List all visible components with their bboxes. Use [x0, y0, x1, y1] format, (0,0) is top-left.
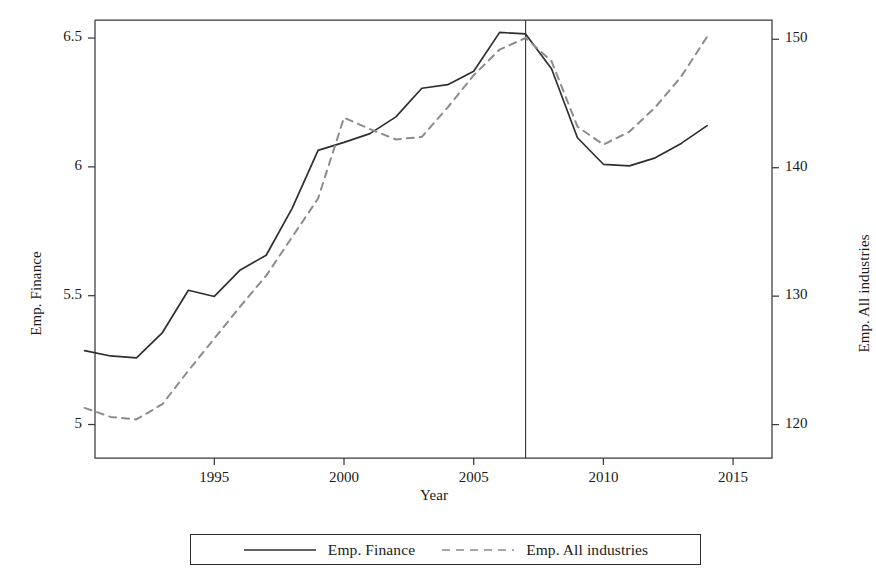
- y-tick-label-left: 6: [10, 157, 82, 174]
- legend-label-emp-all-industries: Emp. All industries: [526, 541, 648, 559]
- x-tick-label: 2005: [440, 469, 508, 486]
- y-tick-label-left: 6.5: [10, 28, 82, 45]
- y-tick-label-right: 150: [785, 29, 845, 46]
- x-tick-label: 2015: [699, 469, 767, 486]
- chart-figure: Emp. Finance Emp. All industries Year 19…: [0, 0, 876, 587]
- x-tick-label: 2000: [310, 469, 378, 486]
- y-axis-right-title: Emp. All industries: [852, 0, 876, 587]
- y-tick-label-right: 120: [785, 415, 845, 432]
- legend-swatch-solid: [243, 544, 317, 556]
- legend-item-emp-finance: Emp. Finance: [243, 541, 415, 559]
- y-tick-label-left: 5: [10, 415, 82, 432]
- series-line-emp-all-industries: [85, 37, 708, 420]
- legend-swatch-dashed: [441, 544, 515, 556]
- y-tick-label-right: 130: [785, 286, 845, 303]
- chart-legend: Emp. Finance Emp. All industries: [190, 534, 701, 565]
- plot-frame: [95, 20, 772, 458]
- legend-item-emp-all-industries: Emp. All industries: [441, 541, 648, 559]
- x-tick-label: 2010: [569, 469, 637, 486]
- series-line-emp-finance: [85, 32, 708, 357]
- y-tick-label-right: 140: [785, 158, 845, 175]
- y-tick-label-left: 5.5: [10, 286, 82, 303]
- legend-label-emp-finance: Emp. Finance: [328, 541, 415, 559]
- x-tick-label: 1995: [180, 469, 248, 486]
- x-axis-title: Year: [95, 487, 773, 504]
